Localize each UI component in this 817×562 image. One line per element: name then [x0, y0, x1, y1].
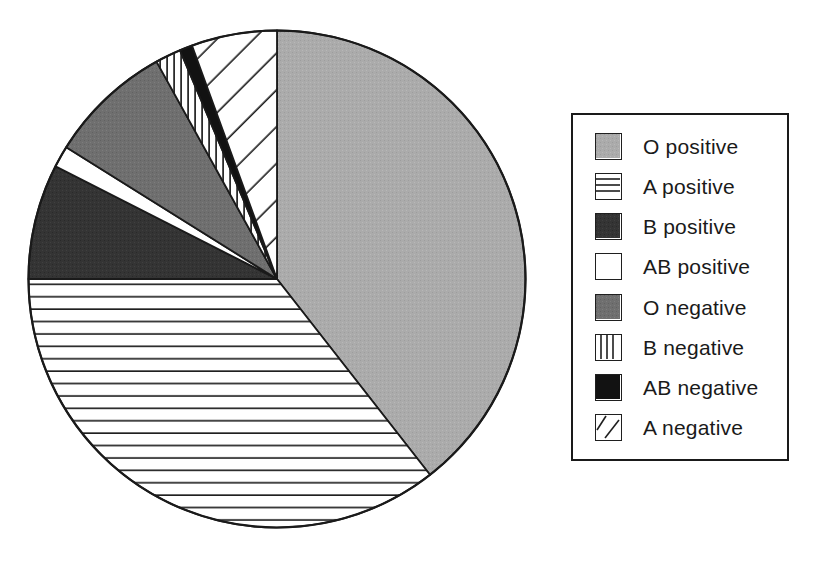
legend-item-label: B positive — [643, 216, 736, 237]
swatch-solid-white — [596, 254, 620, 278]
legend-item[interactable]: A positive — [573, 167, 787, 205]
chart-legend: O positive — [571, 113, 789, 461]
legend-item[interactable]: B negative — [573, 328, 787, 366]
swatch-solid-white — [595, 253, 622, 280]
swatch-vertical-lines — [596, 335, 620, 359]
legend-box: O positive — [571, 113, 789, 461]
legend-item-label: AB negative — [643, 377, 758, 398]
swatch-solid-medium-gray — [596, 295, 620, 319]
swatch-vertical-lines — [595, 334, 622, 361]
swatch-solid-dark-gray — [595, 213, 622, 240]
pie-chart-figure: O positive — [0, 0, 817, 562]
legend-item-label: O negative — [643, 297, 747, 318]
swatch-solid-medium-gray — [595, 294, 622, 321]
swatch-solid-light-gray — [595, 133, 622, 160]
swatch-solid-light-gray — [596, 134, 620, 158]
legend-item[interactable]: AB positive — [573, 248, 787, 286]
legend-item[interactable]: AB negative — [573, 369, 787, 407]
legend-item-label: A negative — [643, 417, 743, 438]
legend-item[interactable]: O negative — [573, 288, 787, 326]
swatch-diagonal-lines — [595, 414, 622, 441]
pie-slices-group — [29, 31, 526, 528]
pie-chart-area — [0, 0, 560, 562]
swatch-solid-black — [596, 375, 620, 399]
swatch-horizontal-lines — [596, 174, 620, 198]
legend-item-label: AB positive — [643, 256, 750, 277]
legend-item-label: B negative — [643, 337, 744, 358]
legend-item[interactable]: A negative — [573, 409, 787, 447]
swatch-diagonal-lines — [596, 415, 620, 439]
swatch-horizontal-lines — [595, 173, 622, 200]
swatch-solid-dark-gray — [596, 214, 620, 238]
pie-chart-svg — [0, 0, 560, 562]
swatch-solid-black — [595, 374, 622, 401]
legend-item[interactable]: O positive — [573, 127, 787, 165]
legend-item-label: A positive — [643, 176, 735, 197]
legend-item-label: O positive — [643, 136, 738, 157]
legend-item[interactable]: B positive — [573, 208, 787, 246]
